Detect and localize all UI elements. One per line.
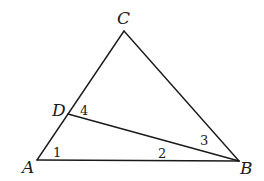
segment-ab bbox=[37, 160, 239, 161]
segment-db bbox=[68, 114, 239, 161]
vertex-label-d: D bbox=[51, 100, 66, 120]
triangle-diagram: A B C D 1 2 3 4 bbox=[0, 0, 264, 181]
angle-label-4: 4 bbox=[80, 103, 88, 118]
vertex-label-c: C bbox=[117, 8, 130, 28]
vertex-label-a: A bbox=[20, 157, 34, 177]
segment-ca bbox=[37, 31, 124, 160]
angle-label-1: 1 bbox=[53, 145, 61, 160]
angle-label-3: 3 bbox=[200, 133, 208, 148]
segment-bc bbox=[124, 31, 239, 161]
vertex-label-b: B bbox=[239, 158, 253, 178]
angle-label-2: 2 bbox=[158, 146, 166, 161]
